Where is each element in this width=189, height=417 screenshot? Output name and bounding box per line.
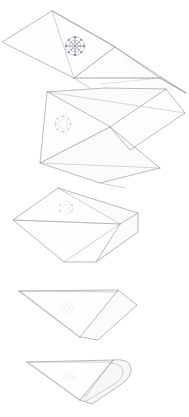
step-1-figure (2, 11, 186, 93)
step-2-figure (40, 88, 185, 188)
step-4-figure (19, 290, 137, 340)
diagram-canvas (0, 0, 189, 417)
step-3-figure (13, 188, 138, 262)
step-5-figure (27, 360, 131, 404)
step2-edge-bottom-tail (100, 183, 125, 188)
folding-diagram: Napkin Folding Instructions Flat square … (0, 0, 189, 417)
